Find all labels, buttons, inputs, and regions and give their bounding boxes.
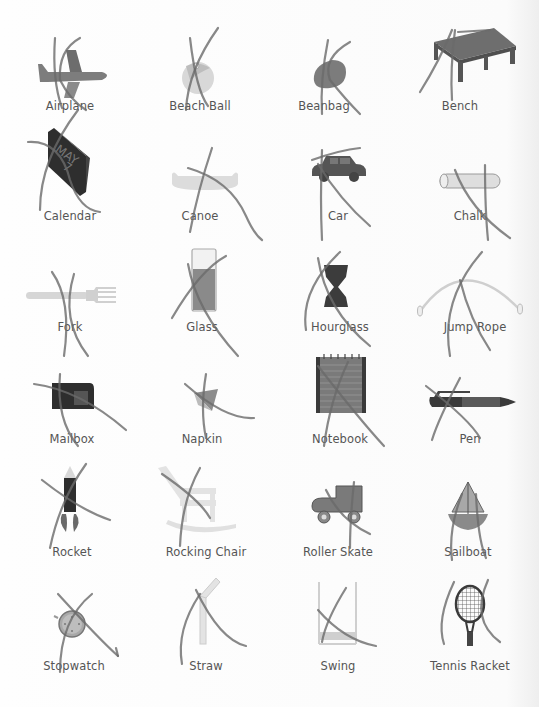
pen-icon [410, 353, 530, 463]
item-label: Rocking Chair [146, 545, 266, 559]
rocket-icon [12, 466, 132, 576]
glass-icon [142, 241, 262, 351]
item-label: Hourglass [280, 320, 400, 334]
stopwatch-icon [14, 580, 134, 690]
item-label: Fork [10, 320, 130, 334]
item-napkin: Napkin [142, 353, 262, 463]
item-label: Straw [146, 659, 266, 673]
item-glass: Glass [142, 241, 262, 351]
item-label: Rocket [12, 545, 132, 559]
bench-icon [400, 20, 520, 130]
mailbox-icon [12, 353, 132, 463]
canoe-icon [140, 130, 260, 240]
beach-ball-icon [140, 20, 260, 130]
item-label: Chalk [410, 209, 530, 223]
item-swing: Swing [278, 580, 398, 690]
chalk-icon [410, 130, 530, 240]
worksheet-page: Airplane Beach Ball Beanbag Bench [0, 0, 539, 707]
item-airplane: Airplane [10, 20, 130, 130]
item-label: Beach Ball [140, 99, 260, 113]
item-beanbag: Beanbag [264, 20, 384, 130]
airplane-icon [10, 20, 130, 130]
item-label: Car [278, 209, 398, 223]
car-icon [278, 130, 398, 240]
item-label: Canoe [140, 209, 260, 223]
jump-rope-icon [415, 241, 535, 351]
hourglass-icon [280, 241, 400, 351]
item-jump-rope: Jump Rope [415, 241, 535, 351]
item-rocking-chair: Rocking Chair [146, 466, 266, 576]
fork-icon [10, 241, 130, 351]
item-sailboat: Sailboat [408, 466, 528, 576]
calendar-icon: MAY 7 [10, 130, 130, 240]
item-label: Swing [278, 659, 398, 673]
item-fork: Fork [10, 241, 130, 351]
item-notebook: Notebook [280, 353, 400, 463]
item-label: Airplane [10, 99, 130, 113]
item-label: Notebook [280, 432, 400, 446]
item-label: Pen [410, 432, 530, 446]
item-label: Roller Skate [278, 545, 398, 559]
item-pen: Pen [410, 353, 530, 463]
beanbag-icon [264, 20, 384, 130]
straw-icon [146, 580, 266, 690]
item-label: Bench [400, 99, 520, 113]
rocking-chair-icon [146, 466, 266, 576]
item-label: Glass [142, 320, 262, 334]
item-stopwatch: Stopwatch [14, 580, 134, 690]
item-label: Sailboat [408, 545, 528, 559]
swing-icon [278, 580, 398, 690]
item-rocket: Rocket [12, 466, 132, 576]
notebook-icon [280, 353, 400, 463]
item-chalk: Chalk [410, 130, 530, 240]
item-mailbox: Mailbox [12, 353, 132, 463]
item-label: Calendar [10, 209, 130, 223]
item-roller-skate: Roller Skate [278, 466, 398, 576]
napkin-icon [142, 353, 262, 463]
item-label: Tennis Racket [410, 659, 530, 673]
item-label: Jump Rope [415, 320, 535, 334]
tennis-racket-icon [410, 580, 530, 690]
item-canoe: Canoe [140, 130, 260, 240]
item-hourglass: Hourglass [280, 241, 400, 351]
item-bench: Bench [400, 20, 520, 130]
sailboat-icon [408, 466, 528, 576]
item-tennis-racket: Tennis Racket [410, 580, 530, 690]
item-label: Mailbox [12, 432, 132, 446]
item-beach-ball: Beach Ball [140, 20, 260, 130]
item-car: Car [278, 130, 398, 240]
item-straw: Straw [146, 580, 266, 690]
item-label: Beanbag [264, 99, 384, 113]
item-label: Napkin [142, 432, 262, 446]
item-label: Stopwatch [14, 659, 134, 673]
item-calendar: MAY 7 Calendar [10, 130, 130, 240]
roller-skate-icon [278, 466, 398, 576]
